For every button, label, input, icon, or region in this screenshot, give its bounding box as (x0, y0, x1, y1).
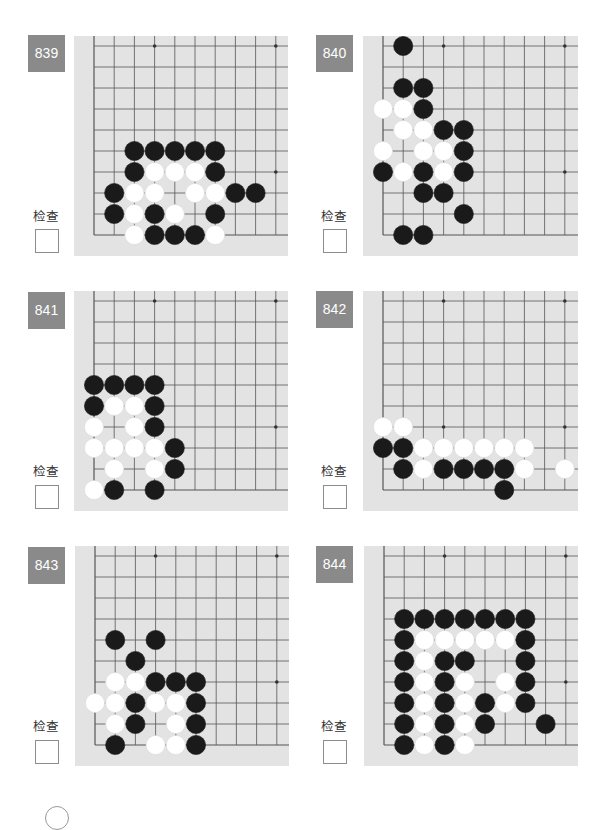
white-stone (125, 396, 144, 415)
go-board (363, 36, 578, 256)
black-stone (455, 609, 474, 628)
black-stone (394, 225, 413, 244)
check-label: 检查 (319, 716, 349, 735)
black-stone (84, 375, 103, 394)
black-stone (414, 183, 433, 202)
black-stone (435, 651, 454, 670)
black-stone (454, 459, 473, 478)
black-stone (395, 714, 414, 733)
black-stone (186, 714, 205, 733)
white-stone (105, 438, 124, 457)
white-stone (455, 735, 474, 754)
check-box[interactable] (323, 485, 347, 509)
star-point (442, 425, 446, 429)
star-point (563, 299, 567, 303)
problem-number-badge: 842 (316, 291, 353, 328)
white-stone (126, 672, 145, 691)
white-stone (166, 693, 185, 712)
black-stone (394, 438, 413, 457)
board-grid (74, 36, 288, 256)
star-point (443, 554, 447, 558)
star-point (274, 44, 278, 48)
black-stone (395, 630, 414, 649)
black-stone (146, 630, 165, 649)
black-stone (165, 141, 184, 160)
black-stone (185, 141, 204, 160)
white-stone (415, 693, 434, 712)
black-stone (475, 693, 494, 712)
check-box[interactable] (35, 229, 59, 253)
black-stone (435, 672, 454, 691)
go-board (74, 291, 288, 511)
black-stone (475, 609, 494, 628)
black-stone (166, 672, 185, 691)
black-stone (186, 693, 205, 712)
black-stone (125, 162, 144, 181)
white-stone (125, 417, 144, 436)
black-stone (105, 204, 124, 223)
white-stone (105, 396, 124, 415)
board-grid (364, 546, 578, 766)
black-stone (145, 480, 164, 499)
black-stone (435, 735, 454, 754)
black-stone (145, 204, 164, 223)
white-stone (106, 672, 125, 691)
white-stone (414, 141, 433, 160)
white-stone (145, 438, 164, 457)
check-box[interactable] (323, 740, 347, 764)
white-stone (166, 714, 185, 733)
black-stone (454, 162, 473, 181)
white-stone (454, 438, 473, 457)
check-box[interactable] (35, 485, 59, 509)
black-stone (145, 417, 164, 436)
white-stone (185, 183, 204, 202)
star-point (442, 44, 446, 48)
black-stone (206, 204, 225, 223)
black-stone (226, 183, 245, 202)
black-stone (373, 162, 392, 181)
black-stone (165, 438, 184, 457)
problem-number-badge: 844 (316, 546, 353, 583)
black-stone (454, 120, 473, 139)
check-label: 检查 (31, 206, 61, 225)
white-stone (106, 693, 125, 712)
page-number-circle (45, 806, 69, 830)
white-stone (415, 651, 434, 670)
black-stone (105, 375, 124, 394)
black-stone (516, 651, 535, 670)
white-stone (146, 693, 165, 712)
problem-number-badge: 840 (316, 35, 353, 72)
check-box[interactable] (35, 740, 59, 764)
white-stone (434, 438, 453, 457)
black-stone (495, 480, 514, 499)
white-stone (106, 714, 125, 733)
go-board (363, 291, 578, 511)
black-stone (105, 480, 124, 499)
black-stone (536, 714, 555, 733)
black-stone (84, 396, 103, 415)
white-stone (495, 438, 514, 457)
star-point (275, 554, 279, 558)
black-stone (516, 630, 535, 649)
black-stone (145, 375, 164, 394)
star-point (563, 170, 567, 174)
white-stone (105, 459, 124, 478)
white-stone (474, 438, 493, 457)
black-stone (475, 714, 494, 733)
black-stone (435, 609, 454, 628)
white-stone (373, 141, 392, 160)
star-point (564, 680, 568, 684)
go-board (74, 36, 288, 256)
black-stone (126, 714, 145, 733)
white-stone (206, 225, 225, 244)
white-stone (496, 672, 515, 691)
white-stone (415, 714, 434, 733)
star-point (563, 44, 567, 48)
star-point (153, 299, 157, 303)
check-box[interactable] (323, 229, 347, 253)
white-stone (496, 693, 515, 712)
star-point (154, 554, 158, 558)
black-stone (415, 609, 434, 628)
white-stone (555, 459, 574, 478)
white-stone (414, 120, 433, 139)
